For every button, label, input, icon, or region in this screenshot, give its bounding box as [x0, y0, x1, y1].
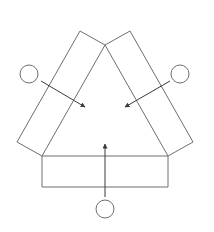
left-node — [20, 65, 38, 83]
left-arrow — [41, 81, 85, 107]
bottom-node — [96, 200, 114, 218]
arrows — [41, 81, 170, 197]
triangle-panels-diagram — [0, 0, 214, 232]
left-panel — [17, 31, 105, 156]
right-arrow — [125, 81, 170, 107]
right-node — [171, 65, 189, 83]
